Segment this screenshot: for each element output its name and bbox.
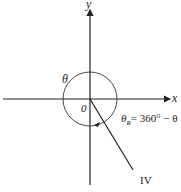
quadrant-label: IV [140, 175, 152, 186]
origin-label: 0 [81, 103, 87, 114]
reference-angle-label: θR= 360° − θ [121, 113, 178, 127]
reference-angle-expression: = 360° − θ [131, 112, 178, 124]
terminal-ray [90, 99, 133, 170]
x-axis-label: x [172, 92, 177, 104]
theta-label: θ [62, 73, 68, 85]
diagram-canvas [0, 0, 181, 192]
y-axis-label: y [86, 0, 91, 10]
